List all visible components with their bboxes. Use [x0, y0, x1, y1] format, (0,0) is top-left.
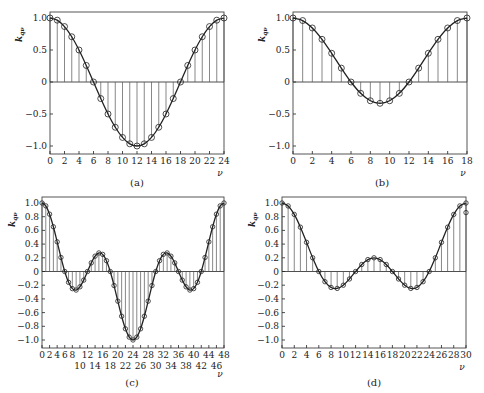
- caption-d: (d): [354, 377, 394, 388]
- y-axis-label: kqν: [7, 212, 19, 227]
- x-tick-label: 24: [218, 156, 230, 166]
- x-tick-label-row2: 22: [120, 361, 131, 371]
- caption-c: (c): [112, 377, 152, 388]
- y-tick-label: 0: [273, 267, 279, 277]
- x-tick-label: 2: [47, 350, 53, 360]
- x-tick-label: 4: [76, 156, 82, 166]
- x-tick-label: 16: [374, 350, 386, 360]
- x-tick-label: 6: [316, 350, 322, 360]
- x-tick-label-row2: 10: [74, 361, 86, 371]
- x-tick-label: 22: [411, 350, 422, 360]
- x-tick-label: 16: [442, 156, 454, 166]
- x-tick-label: 32: [158, 350, 169, 360]
- chart-panel-c: 1.00.80.60.40.20−0.2−0.4−0.6−0.8−1.00246…: [7, 197, 230, 379]
- x-axis-label: ν: [217, 168, 223, 178]
- x-tick-label: 12: [403, 156, 414, 166]
- x-tick-label: 14: [362, 350, 374, 360]
- x-tick-label: 18: [175, 156, 187, 166]
- x-tick-label: 2: [291, 350, 297, 360]
- y-tick-label: 0.6: [25, 225, 40, 235]
- y-tick-label: −0.2: [257, 280, 279, 290]
- y-tick-label: 0.2: [265, 253, 279, 263]
- x-tick-label: 30: [460, 350, 472, 360]
- x-tick-label: 20: [399, 350, 411, 360]
- x-tick-label: 0: [39, 350, 45, 360]
- chart-panel-a: 1.00.50−0.5−1.0024681012141618202224νkqν: [14, 12, 230, 178]
- x-tick-label-row2: 30: [150, 361, 162, 371]
- x-tick-label: 12: [82, 350, 93, 360]
- y-tick-label: −0.5: [268, 109, 290, 119]
- x-tick-label: 16: [97, 350, 109, 360]
- x-tick-label-row2: 38: [180, 361, 192, 371]
- y-tick-label: −1.0: [25, 141, 47, 151]
- x-tick-label: 0: [290, 156, 296, 166]
- x-tick-label: 8: [69, 350, 75, 360]
- y-tick-label: 0.2: [25, 253, 39, 263]
- x-tick-label: 28: [142, 350, 154, 360]
- y-tick-label: 0.6: [265, 225, 280, 235]
- x-tick-label: 6: [62, 350, 68, 360]
- x-tick-label: 10: [384, 156, 396, 166]
- x-tick-label-row2: 42: [196, 361, 207, 371]
- y-tick-label: −0.4: [17, 294, 39, 304]
- y-tick-label: 0.5: [276, 45, 291, 55]
- x-tick-label: 20: [189, 156, 201, 166]
- y-axis-label: kqν: [257, 27, 269, 42]
- y-axis-label: kqν: [14, 27, 26, 42]
- x-tick-label: 24: [423, 350, 435, 360]
- y-tick-label: 0: [33, 267, 39, 277]
- x-tick-label-row2: 18: [105, 361, 117, 371]
- y-tick-label: 0.8: [25, 212, 40, 222]
- y-tick-label: −0.6: [257, 308, 279, 318]
- x-tick-label: 26: [436, 350, 448, 360]
- x-tick-label: 10: [117, 156, 129, 166]
- x-tick-label: 44: [203, 350, 215, 360]
- plot-frame: [282, 197, 466, 348]
- x-tick-label: 4: [304, 350, 310, 360]
- x-tick-label: 0: [47, 156, 53, 166]
- y-tick-label: −0.5: [25, 109, 47, 119]
- y-tick-label: −1.0: [268, 141, 290, 151]
- x-tick-label: 8: [328, 350, 334, 360]
- x-tick-label: 12: [350, 350, 361, 360]
- x-tick-label: 6: [348, 156, 354, 166]
- x-tick-label: 28: [448, 350, 460, 360]
- y-tick-label: −0.4: [257, 294, 279, 304]
- x-tick-label: 6: [91, 156, 97, 166]
- x-tick-label: 22: [204, 156, 215, 166]
- x-tick-label: 18: [387, 350, 399, 360]
- x-tick-label: 24: [127, 350, 139, 360]
- x-tick-label: 14: [423, 156, 435, 166]
- x-axis-label: ν: [217, 369, 223, 379]
- chart-panel-d: 1.00.80.60.40.20−0.2−0.4−0.6−0.8−1.00246…: [247, 197, 472, 372]
- y-tick-label: 0.4: [25, 239, 40, 249]
- y-tick-label: −1.0: [17, 335, 39, 345]
- x-tick-label: 4: [54, 350, 60, 360]
- x-tick-label-row2: 34: [165, 361, 177, 371]
- x-tick-label: 8: [367, 156, 373, 166]
- x-tick-label: 8: [105, 156, 111, 166]
- y-tick-label: 1.0: [265, 198, 280, 208]
- x-axis-label: ν: [459, 362, 465, 372]
- y-tick-label: −1.0: [257, 335, 279, 345]
- x-tick-label: 20: [112, 350, 124, 360]
- y-tick-label: 1.0: [25, 198, 40, 208]
- x-tick-label: 2: [62, 156, 68, 166]
- x-tick-label: 14: [146, 156, 158, 166]
- y-tick-label: 0: [41, 77, 47, 87]
- x-tick-label-row2: 14: [89, 361, 101, 371]
- y-axis-label: kqν: [247, 212, 259, 227]
- y-tick-label: 0.4: [265, 239, 280, 249]
- x-tick-label: 12: [131, 156, 142, 166]
- x-tick-label: 4: [329, 156, 335, 166]
- x-tick-label: 40: [188, 350, 200, 360]
- y-tick-label: 1.0: [33, 13, 48, 23]
- x-tick-label: 48: [218, 350, 230, 360]
- caption-a: (a): [117, 177, 157, 188]
- x-axis-label: ν: [460, 168, 466, 178]
- y-tick-label: −0.6: [17, 308, 39, 318]
- y-tick-label: −0.8: [17, 321, 39, 331]
- caption-b: (b): [362, 177, 402, 188]
- y-tick-label: 1.0: [276, 13, 291, 23]
- x-tick-label: 2: [309, 156, 315, 166]
